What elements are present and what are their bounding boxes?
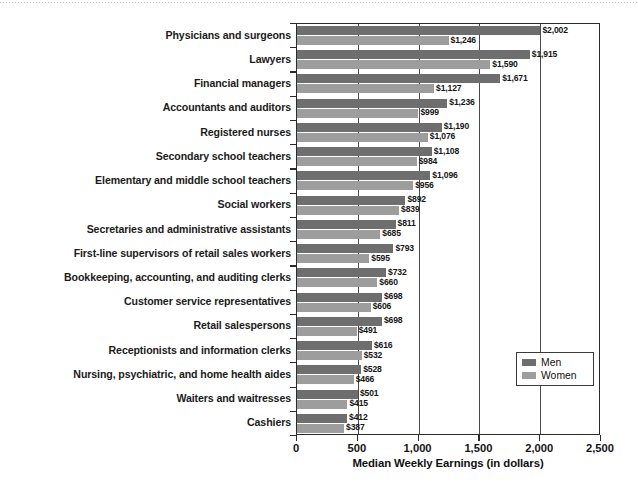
bar-value-label: $698: [384, 292, 403, 301]
bar-men: [297, 26, 540, 35]
bar-value-label: $616: [374, 341, 393, 350]
bar-women: [297, 84, 434, 93]
bar-women: [297, 181, 413, 190]
bar-group: $1,108$984: [297, 145, 599, 169]
x-axis-title: Median Weekly Earnings (in dollars): [296, 457, 600, 469]
bar-group: $698$606: [297, 291, 599, 315]
bar-women: [297, 254, 369, 263]
bar-value-label: $839: [401, 205, 420, 214]
bar-value-label: $2,002: [542, 26, 567, 35]
x-tick-label: 1,000: [404, 442, 432, 454]
legend-swatch-women: [522, 372, 536, 379]
bar-value-label: $1,127: [436, 84, 461, 93]
bar-men: [297, 50, 530, 59]
y-axis-tick-marks: [0, 23, 296, 435]
x-tick: [539, 435, 540, 441]
bar-group: $412$387: [297, 412, 599, 436]
bar-men: [297, 74, 500, 83]
bar-value-label: $606: [373, 302, 392, 311]
bar-value-label: $685: [382, 229, 401, 238]
bar-men: [297, 147, 432, 156]
bar-value-label: $1,190: [444, 122, 469, 131]
bar-men: [297, 171, 430, 180]
x-tick: [357, 435, 358, 441]
bar-value-label: $698: [384, 316, 403, 325]
bar-group: $501$415: [297, 388, 599, 412]
x-tick-label: 500: [347, 442, 366, 454]
bar-group: $1,915$1,590: [297, 48, 599, 72]
x-tick-label: 2,500: [586, 442, 614, 454]
bar-women: [297, 36, 449, 45]
x-tick: [296, 435, 297, 441]
bar-value-label: $984: [419, 157, 438, 166]
bar-women: [297, 157, 417, 166]
bar-men: [297, 244, 393, 253]
bar-value-label: $999: [420, 108, 439, 117]
bar-men: [297, 268, 386, 277]
bar-group: $1,236$999: [297, 97, 599, 121]
median-weekly-earnings-bar-chart: Physicians and surgeonsLawyersFinancial …: [0, 0, 638, 484]
bar-men: [297, 123, 442, 132]
legend-item-women: Women: [522, 369, 593, 382]
bar-value-label: $811: [398, 219, 416, 228]
bar-group: $811$685: [297, 218, 599, 242]
bar-women: [297, 133, 428, 142]
bar-value-label: $892: [407, 195, 426, 204]
bar-group: $2,002$1,246: [297, 24, 599, 48]
bar-value-label: $412: [349, 413, 368, 422]
bar-women: [297, 60, 490, 69]
bar-group: $793$595: [297, 242, 599, 266]
bar-value-label: $415: [349, 399, 368, 408]
bar-value-label: $1,096: [432, 171, 457, 180]
chart-legend: MenWomen: [516, 352, 594, 386]
bar-men: [297, 220, 396, 229]
bar-men: [297, 196, 405, 205]
bar-value-label: $501: [360, 389, 379, 398]
bar-women: [297, 424, 344, 433]
bar-men: [297, 365, 361, 374]
bar-women: [297, 303, 371, 312]
bar-women: [297, 327, 357, 336]
legend-label: Men: [541, 357, 561, 368]
bar-group: $698$491: [297, 315, 599, 339]
bar-women: [297, 400, 347, 409]
bar-men: [297, 341, 372, 350]
bar-value-label: $1,246: [451, 36, 476, 45]
x-tick-label: 0: [293, 442, 299, 454]
x-tick-label: 1,500: [464, 442, 492, 454]
x-tick: [600, 435, 601, 441]
bar-men: [297, 414, 347, 423]
bar-value-label: $528: [363, 365, 382, 374]
bar-value-label: $732: [388, 268, 407, 277]
bar-value-label: $1,236: [449, 98, 474, 107]
bar-group: $1,096$956: [297, 169, 599, 193]
bar-group: $1,190$1,076: [297, 121, 599, 145]
legend-item-men: Men: [522, 356, 593, 369]
bar-men: [297, 293, 382, 302]
bar-group: $892$839: [297, 194, 599, 218]
bar-value-label: $1,108: [434, 147, 459, 156]
x-tick: [418, 435, 419, 441]
bar-women: [297, 278, 377, 287]
legend-swatch-men: [522, 359, 536, 366]
x-tick: [478, 435, 479, 441]
bar-value-label: $660: [379, 278, 398, 287]
legend-label: Women: [541, 370, 577, 381]
x-tick-label: 2,000: [525, 442, 553, 454]
bar-women: [297, 230, 380, 239]
bar-women: [297, 109, 418, 118]
bar-value-label: $595: [371, 254, 390, 263]
bar-value-label: $1,671: [502, 74, 527, 83]
bar-value-label: $1,915: [532, 50, 557, 59]
bar-value-label: $1,590: [492, 60, 517, 69]
bar-value-label: $1,076: [430, 132, 455, 141]
bar-women: [297, 375, 354, 384]
bar-value-label: $532: [364, 351, 383, 360]
bar-women: [297, 206, 399, 215]
bar-group: $732$660: [297, 266, 599, 290]
bar-value-label: $956: [415, 181, 434, 190]
bar-women: [297, 351, 362, 360]
bar-value-label: $387: [346, 423, 365, 432]
bar-value-label: $466: [356, 375, 375, 384]
bar-value-label: $491: [359, 326, 378, 335]
